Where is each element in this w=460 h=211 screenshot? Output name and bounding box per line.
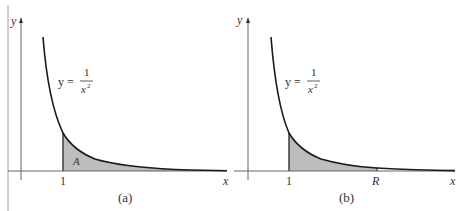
equation-denominator-a: x: [80, 83, 86, 95]
tick-1-a: 1: [60, 174, 66, 188]
y-axis-arrow-a: [19, 17, 23, 23]
equation-exponent-a: 2: [87, 82, 91, 90]
y-axis-label-a: y: [10, 14, 17, 28]
area-label-a: A: [72, 155, 80, 167]
equation-denominator-b: x: [307, 83, 313, 95]
shaded-area-a: [63, 133, 227, 171]
equation-lhs-a: y =: [58, 75, 74, 89]
y-axis-label-b: y: [236, 13, 243, 27]
figure: y x 1 A (a) y = 1 x 2 y x 1 R (b) y =: [0, 0, 460, 211]
x-axis-label-b: x: [449, 174, 456, 188]
tick-R-b: R: [371, 174, 380, 188]
equation-numerator-b: 1: [311, 66, 317, 78]
equation-lhs-b: y =: [285, 75, 301, 89]
shaded-area-b: [289, 133, 377, 171]
equation-numerator-a: 1: [84, 66, 90, 78]
caption-a: (a): [118, 190, 132, 205]
tick-1-b: 1: [286, 174, 292, 188]
caption-b: (b): [339, 190, 354, 205]
curve-equation-b: y = 1 x 2: [285, 66, 320, 95]
panel-b: y x 1 R (b) y = 1 x 2: [234, 13, 456, 205]
equation-exponent-b: 2: [314, 82, 318, 90]
curve-equation-a: y = 1 x 2: [58, 66, 93, 95]
panel-a: y x 1 A (a) y = 1 x 2: [8, 14, 229, 205]
x-axis-label-a: x: [222, 174, 229, 188]
y-axis-arrow-b: [246, 17, 250, 23]
